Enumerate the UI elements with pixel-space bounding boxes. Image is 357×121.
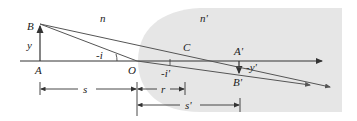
label-n-prime: n' — [200, 12, 209, 24]
label-s-prime: s' — [185, 99, 192, 111]
label-angle-i-prime: -i' — [161, 67, 171, 79]
refraction-diagram: B y A n n' -i O -i' C A' -y' B' s r s' — [0, 0, 357, 121]
label-minus-y-prime: -y' — [246, 61, 258, 73]
angle-i-arc — [116, 54, 117, 61]
label-A-prime: A' — [233, 45, 244, 57]
label-y: y — [26, 39, 32, 51]
label-n: n — [100, 12, 106, 24]
label-r: r — [161, 83, 166, 95]
label-B: B — [27, 20, 34, 32]
label-O: O — [128, 64, 136, 76]
label-C: C — [183, 41, 191, 53]
refracting-medium-region — [138, 8, 342, 112]
ray-to-vertex — [40, 24, 137, 61]
label-B-prime: B' — [233, 76, 243, 88]
label-s: s — [83, 83, 87, 95]
label-A: A — [34, 64, 42, 76]
diagram-canvas: B y A n n' -i O -i' C A' -y' B' s r s' — [0, 0, 357, 121]
label-angle-i: -i — [96, 49, 103, 61]
